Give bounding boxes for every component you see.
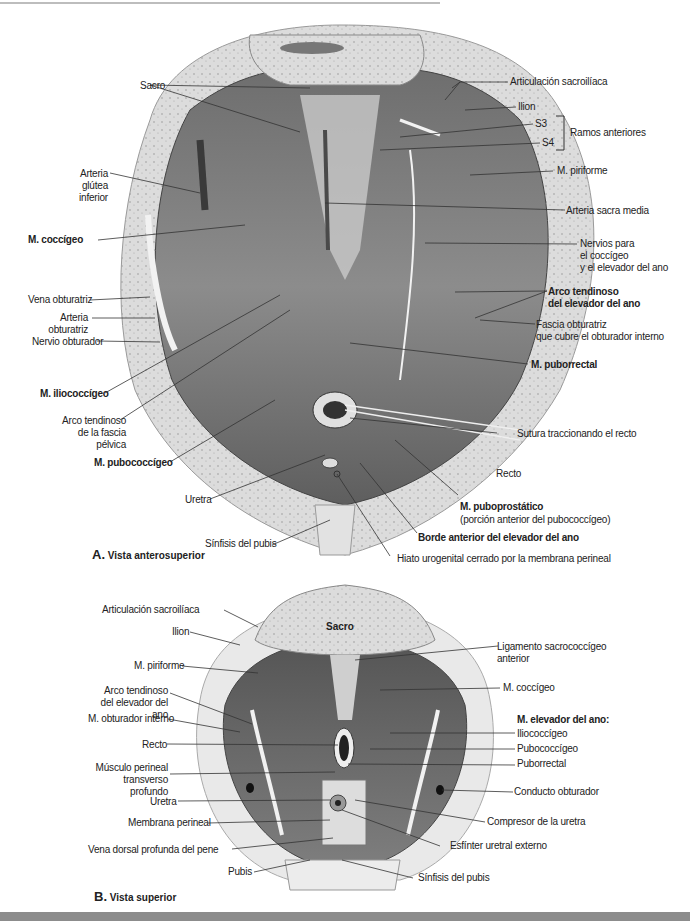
label-arteria-obturatriz: Arteria obturatriz xyxy=(40,312,88,336)
label-arteria-glutea-inferior: Arteria glútea inferior xyxy=(52,168,108,204)
label-recto-b: Recto xyxy=(142,739,167,751)
label-sutura-recto: Sutura traccionando el recto xyxy=(517,428,636,440)
label-m-coccigeo-b: M. coccígeo xyxy=(503,682,555,694)
label-ramos-anteriores: Ramos anteriores xyxy=(570,127,646,139)
label-fascia-obturatriz: Fascia obturatriz que cubre el obturador… xyxy=(536,319,664,343)
label-m-puboprostatico-note: (porción anterior del pubococcígeo) xyxy=(460,514,610,526)
label-nervios-coccigeo-elevador: Nervios para el coccígeo y el elevador d… xyxy=(580,238,668,274)
label-arco-tendinoso-elevador-a: Arco tendinoso del elevador del ano xyxy=(548,286,640,310)
figure-a-title: Vista anterosuperior xyxy=(108,550,205,561)
label-uretra-a: Uretra xyxy=(185,494,212,506)
bottom-band xyxy=(0,912,690,921)
label-m-obturador-interno: M. obturador interno xyxy=(88,713,174,725)
label-vena-dorsal: Vena dorsal profunda del pene xyxy=(88,844,218,856)
label-articulacion-sacroiliaca-a: Articulación sacroilíaca xyxy=(510,76,607,88)
label-ilion-b: Ilion xyxy=(172,626,189,638)
label-m-coccigeo-a: M. coccígeo xyxy=(28,234,83,246)
figure-b-caption: B. Vista superior xyxy=(94,889,176,904)
label-arco-tendinoso-fascia-pelvica: Arco tendinoso de la fascia pélvica xyxy=(52,415,126,451)
label-ligamento-sacrococcigeo: Ligamento sacrococcígeo anterior xyxy=(497,641,606,665)
label-musculo-perineal: Músculo perineal transverso profundo xyxy=(88,762,168,798)
label-uretra-b: Uretra xyxy=(150,796,177,808)
figure-b-letter: B. xyxy=(94,889,107,904)
figure-a-caption: A. Vista anterosuperior xyxy=(92,547,205,562)
label-m-piriforme-b: M. piriforme xyxy=(134,660,184,672)
label-compresor-uretra: Compresor de la uretra xyxy=(487,816,585,828)
label-iliococcigeo: Iliococcígeo xyxy=(517,728,567,740)
label-s4: S4 xyxy=(542,137,554,149)
label-pubis: Pubis xyxy=(228,866,252,878)
label-conducto-obturador: Conducto obturador xyxy=(514,786,599,798)
label-s3: S3 xyxy=(535,118,547,130)
label-m-elevador-header: M. elevador del ano: xyxy=(517,714,609,726)
label-esfinter-uretral: Esfínter uretral externo xyxy=(450,840,547,852)
figure-a-letter: A. xyxy=(92,547,105,562)
label-m-puborrectal: M. puborrectal xyxy=(531,359,597,371)
figure-b-title: Vista superior xyxy=(110,892,177,903)
label-hiato-urogenital: Hiato urogenital cerrado por la membrana… xyxy=(397,553,611,565)
label-sacro-b: Sacro xyxy=(326,621,354,632)
label-m-pubococcigeo: M. pubococcígeo xyxy=(94,457,173,469)
label-arteria-sacra-media: Arteria sacra media xyxy=(566,205,649,217)
label-sinfisis-pubis-a: Sínfisis del pubis xyxy=(205,538,276,550)
label-borde-anterior-elevador: Borde anterior del elevador del ano xyxy=(418,532,579,544)
label-m-piriforme-a: M. piriforme xyxy=(557,165,607,177)
label-membrana-perineal: Membrana perineal xyxy=(128,817,211,829)
label-puborrectal: Puborrectal xyxy=(517,758,566,770)
label-nervio-obturador: Nervio obturador xyxy=(32,336,103,348)
label-m-puboprostatico: M. puboprostático xyxy=(460,501,543,513)
label-recto-a: Recto xyxy=(496,468,521,480)
label-m-iliococcigeo: M. iliococcígeo xyxy=(40,388,109,400)
label-sinfisis-pubis-b: Sínfisis del pubis xyxy=(418,872,489,884)
label-ilion-a: Ilion xyxy=(518,101,535,113)
label-sacro: Sacro xyxy=(140,80,165,92)
label-articulacion-sacroiliaca-b: Articulación sacroilíaca xyxy=(102,604,199,616)
label-vena-obturatriz: Vena obturatriz xyxy=(28,294,92,306)
label-pubococcigeo: Pubococcígeo xyxy=(517,743,578,755)
